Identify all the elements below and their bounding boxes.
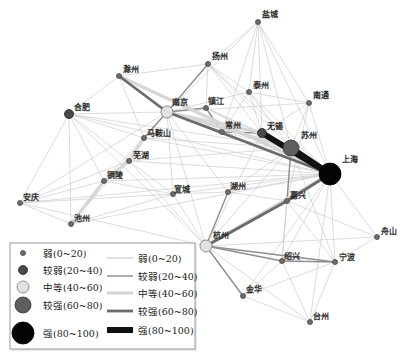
network-edge <box>20 203 206 246</box>
city-label: 绍兴 <box>283 251 300 261</box>
city-label: 无锡 <box>266 121 283 131</box>
city-label: 盐城 <box>262 9 278 19</box>
city-label: 铜陵 <box>107 170 124 180</box>
city-label: 宁波 <box>339 252 356 262</box>
city-label: 舟山 <box>381 226 397 236</box>
city-node <box>18 201 23 206</box>
city-node <box>308 320 313 325</box>
city-label: 泰州 <box>252 80 269 90</box>
legend-node-fairly-strong-symbol <box>15 297 31 313</box>
city-label: 合肥 <box>73 102 90 112</box>
city-node <box>102 179 107 184</box>
legend-node-medium-label: 中等(40~60) <box>43 282 103 293</box>
network-edge <box>129 161 173 194</box>
city-label: 马鞍山 <box>147 128 171 138</box>
network-edge <box>330 174 335 262</box>
city-node <box>247 90 252 95</box>
city-node <box>206 62 211 67</box>
legend-edge-fairly-strong-label: 较强(60~80) <box>138 306 198 317</box>
legend-node-fairly-weak-label: 较弱(20~40) <box>43 265 103 276</box>
city-node <box>258 129 267 138</box>
city-label: 嘉兴 <box>289 190 306 200</box>
city-label: 南京 <box>172 97 188 107</box>
city-label: 上海 <box>342 154 358 164</box>
network-edge <box>228 192 287 201</box>
network-edge <box>173 174 330 194</box>
legend-node-strong-label: 强(80~100) <box>43 328 99 339</box>
city-label: 滁州 <box>123 64 139 74</box>
network-edge <box>69 114 104 181</box>
network-edge <box>69 112 167 114</box>
network-edge <box>310 174 330 322</box>
network-edge <box>173 194 206 246</box>
network-edge <box>167 112 330 174</box>
city-label: 常州 <box>225 120 241 130</box>
city-label: 池州 <box>74 213 90 223</box>
city-node <box>241 294 246 299</box>
legend-edge-strong-label: 强(80~100) <box>138 325 194 336</box>
network-edge <box>167 112 173 194</box>
legend-node-fairly-weak-symbol <box>19 266 28 275</box>
network-edge <box>206 237 377 246</box>
city-node <box>65 110 74 119</box>
city-label: 安庆 <box>23 192 39 202</box>
city-network-diagram: 盐城扬州泰州南通滁州南京镇江常州无锡苏州上海合肥马鞍山芜湖铜陵安庆池州宣城湖州嘉… <box>0 0 405 363</box>
city-label: 宣城 <box>174 184 190 194</box>
legend-edge-weak-label: 弱(0~20) <box>138 253 182 264</box>
city-label: 苏州 <box>301 130 317 140</box>
city-node <box>220 130 225 135</box>
city-node <box>117 74 122 79</box>
legend-node-strong-symbol <box>12 322 34 344</box>
legend: 弱(0~20) 较弱(20~40) 中等(40~60) 较强(60~80) 强(… <box>10 243 198 351</box>
city-label: 南通 <box>313 90 329 100</box>
city-label: 台州 <box>313 311 329 321</box>
city-node <box>204 106 209 111</box>
city-label: 镇江 <box>208 96 224 106</box>
network-edge <box>206 246 243 296</box>
network-edge <box>69 114 71 224</box>
city-node <box>285 199 290 204</box>
network-edge <box>249 92 262 133</box>
city-node <box>200 240 212 252</box>
city-node <box>319 163 341 185</box>
network-edge <box>258 22 309 103</box>
legend-node-weak-label: 弱(0~20) <box>43 248 87 259</box>
legend-node-medium-symbol <box>17 281 29 293</box>
city-label: 金华 <box>245 284 262 294</box>
city-label: 湖州 <box>230 181 246 191</box>
city-node <box>307 101 312 106</box>
city-node <box>375 235 380 240</box>
city-node <box>283 140 299 156</box>
city-label: 芜湖 <box>133 150 149 160</box>
city-node <box>256 20 261 25</box>
network-edge <box>20 114 69 203</box>
legend-node-fairly-strong-label: 较强(60~80) <box>43 300 103 311</box>
network-edge <box>20 194 173 203</box>
network-edge <box>243 174 330 296</box>
network-edge <box>282 261 335 262</box>
network-edge <box>69 114 144 138</box>
legend-edge-fairly-weak-label: 较弱(20~40) <box>138 271 198 282</box>
city-node <box>333 260 338 265</box>
legend-node-weak-symbol <box>21 251 26 256</box>
city-node <box>127 159 132 164</box>
city-label: 杭州 <box>213 230 229 240</box>
city-node <box>69 222 74 227</box>
city-label: 扬州 <box>212 51 228 61</box>
legend-edge-medium-label: 中等(40~60) <box>138 288 198 299</box>
city-node <box>161 106 173 118</box>
network-edge <box>20 203 71 224</box>
city-node <box>142 136 147 141</box>
network-edge <box>206 246 335 262</box>
